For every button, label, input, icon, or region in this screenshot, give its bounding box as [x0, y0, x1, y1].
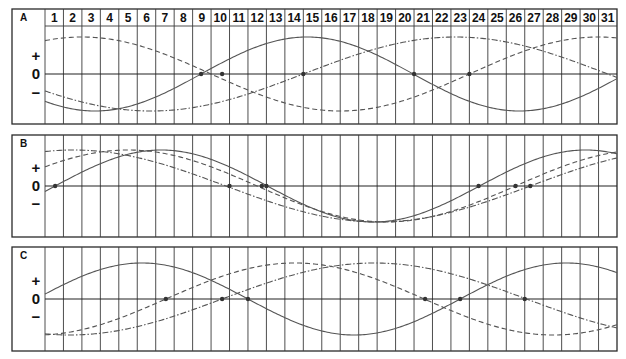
day-label: 2: [69, 11, 76, 25]
zero-crossing-marker: [53, 184, 57, 188]
zero-crossing-marker: [199, 72, 203, 76]
minus-label: −: [32, 308, 41, 325]
day-label: 4: [106, 11, 113, 25]
zero-crossing-marker: [246, 297, 250, 301]
zero-crossing-marker: [164, 297, 168, 301]
day-label: 30: [583, 11, 597, 25]
day-label: 9: [198, 11, 205, 25]
panel-c: C+0−: [12, 247, 617, 351]
day-label: 6: [143, 11, 150, 25]
day-label: 31: [601, 11, 615, 25]
day-label: 23: [453, 11, 467, 25]
panel-b: B+0−: [12, 135, 617, 237]
zero-crossing-marker: [458, 297, 462, 301]
day-label: 22: [435, 11, 449, 25]
day-label: 28: [546, 11, 560, 25]
day-label: 19: [380, 11, 394, 25]
plus-label: +: [32, 47, 41, 64]
day-label: 20: [398, 11, 412, 25]
zero-crossing-marker: [264, 184, 268, 188]
zero-crossing-marker: [260, 184, 264, 188]
panel-label: A: [20, 12, 27, 23]
zero-crossing-marker: [528, 184, 532, 188]
day-label: 3: [88, 11, 95, 25]
day-label: 10: [214, 11, 228, 25]
minus-label: −: [32, 195, 41, 212]
day-label: 25: [490, 11, 504, 25]
plus-label: +: [32, 272, 41, 289]
zero-crossing-marker: [513, 184, 517, 188]
zero-label: 0: [32, 177, 40, 194]
day-label: 15: [306, 11, 320, 25]
minus-label: −: [32, 84, 41, 101]
zero-label: 0: [32, 290, 40, 307]
biorhythm-chart: 1234567891011121314151617181920212223242…: [0, 0, 626, 359]
panel-label: C: [20, 250, 27, 261]
plus-label: +: [32, 159, 41, 176]
day-label: 27: [527, 11, 541, 25]
day-label: 13: [269, 11, 283, 25]
zero-crossing-marker: [220, 297, 224, 301]
panel-label: B: [20, 138, 27, 149]
day-label: 17: [343, 11, 357, 25]
day-label: 5: [125, 11, 132, 25]
day-label: 26: [509, 11, 523, 25]
zero-crossing-marker: [412, 72, 416, 76]
day-label: 8: [180, 11, 187, 25]
zero-crossing-marker: [523, 297, 527, 301]
day-label: 7: [162, 11, 169, 25]
zero-crossing-marker: [423, 297, 427, 301]
day-label: 24: [472, 11, 486, 25]
day-label: 1: [51, 11, 58, 25]
day-label: 12: [251, 11, 265, 25]
day-label: 14: [287, 11, 301, 25]
zero-crossing-marker: [220, 72, 224, 76]
day-label: 29: [564, 11, 578, 25]
zero-label: 0: [32, 65, 40, 82]
panel-a: 1234567891011121314151617181920212223242…: [12, 9, 617, 124]
zero-crossing-marker: [467, 72, 471, 76]
zero-crossing-marker: [227, 184, 231, 188]
day-label: 11: [232, 11, 245, 25]
day-label: 21: [417, 11, 431, 25]
day-label: 18: [361, 11, 375, 25]
zero-crossing-marker: [476, 184, 480, 188]
zero-crossing-marker: [301, 72, 305, 76]
day-label: 16: [324, 11, 338, 25]
